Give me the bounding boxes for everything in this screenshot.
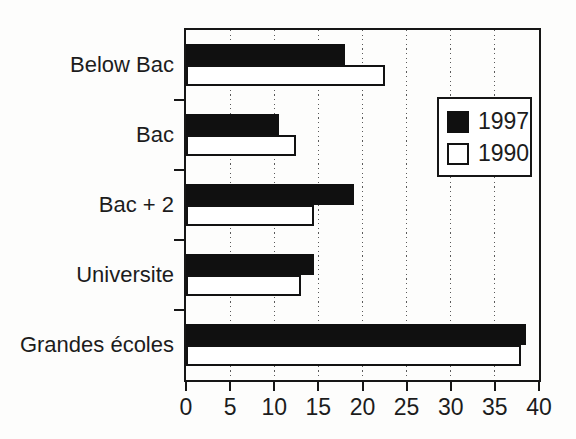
y-axis-tick bbox=[174, 99, 184, 101]
bar-1990-universite bbox=[186, 275, 301, 296]
bar-1997-bac bbox=[186, 114, 279, 135]
bar-1990-bac bbox=[186, 135, 296, 156]
x-axis-label-0: 0 bbox=[180, 395, 193, 419]
bar-1990-bac-2 bbox=[186, 205, 314, 226]
plot-area bbox=[184, 28, 541, 382]
x-axis-label-25: 25 bbox=[394, 395, 420, 419]
category-label-1: Below Bac bbox=[0, 52, 174, 78]
y-axis-tick bbox=[174, 239, 184, 241]
x-axis-label-20: 20 bbox=[350, 395, 376, 419]
bar-1990-below-bac bbox=[186, 65, 385, 86]
x-axis-tick-25 bbox=[406, 382, 408, 391]
x-axis-label-10: 10 bbox=[261, 395, 287, 419]
x-axis-tick-0 bbox=[185, 382, 187, 391]
bar-chart-figure: 1997 1990 Below BacBacBac + 2UniversiteG… bbox=[0, 0, 576, 439]
bar-1997-bac-2 bbox=[186, 184, 354, 205]
category-label-5: Grandes écoles bbox=[0, 332, 174, 358]
legend-entry-1997: 1997 bbox=[447, 110, 530, 133]
legend-label-1990: 1990 bbox=[478, 142, 529, 165]
x-axis-label-5: 5 bbox=[224, 395, 237, 419]
bar-1990-grandes-coles bbox=[186, 345, 521, 366]
legend-swatch-open-icon bbox=[447, 143, 469, 165]
bar-1997-below-bac bbox=[186, 44, 345, 65]
bar-1997-grandes-coles bbox=[186, 324, 526, 345]
x-axis-tick-15 bbox=[317, 382, 319, 391]
category-label-4: Universite bbox=[0, 262, 174, 288]
x-axis-tick-10 bbox=[273, 382, 275, 391]
x-axis-tick-20 bbox=[362, 382, 364, 391]
bar-1997-universite bbox=[186, 254, 314, 275]
category-label-2: Bac bbox=[0, 122, 174, 148]
chart-legend: 1997 1990 bbox=[437, 97, 532, 177]
x-axis-label-30: 30 bbox=[438, 395, 464, 419]
y-axis-tick bbox=[174, 169, 184, 171]
legend-label-1997: 1997 bbox=[478, 110, 529, 133]
x-axis-tick-35 bbox=[494, 382, 496, 391]
y-axis-tick bbox=[174, 309, 184, 311]
x-axis-tick-5 bbox=[229, 382, 231, 391]
x-axis-tick-30 bbox=[450, 382, 452, 391]
x-axis-label-40: 40 bbox=[526, 395, 552, 419]
legend-swatch-filled-icon bbox=[447, 111, 469, 133]
x-axis-label-15: 15 bbox=[306, 395, 332, 419]
legend-entry-1990: 1990 bbox=[447, 142, 530, 165]
x-axis-label-35: 35 bbox=[482, 395, 508, 419]
category-label-3: Bac + 2 bbox=[0, 192, 174, 218]
x-axis-tick-40 bbox=[538, 382, 540, 391]
